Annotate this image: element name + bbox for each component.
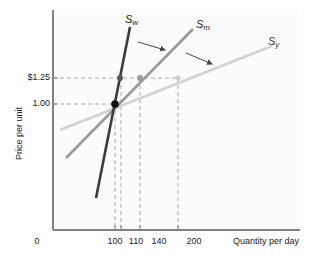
marker-sw-at-125 — [117, 75, 123, 81]
marker-sm-at-125 — [137, 75, 143, 81]
curve-label-sw: Sw — [125, 13, 138, 27]
y-tick-label-125: $1.25 — [6, 72, 50, 82]
y-axis-title: Price per unit — [14, 107, 24, 160]
marker-common-intersection — [111, 100, 119, 108]
curve-label-sm: Sm — [196, 18, 210, 32]
supply-curve-sy — [60, 46, 272, 130]
arrow-sm-to-sy — [186, 53, 212, 64]
arrow-sw-to-sm — [138, 42, 165, 50]
curve-label-sy-sub: y — [275, 40, 279, 49]
supply-curve-figure: Price per unit $1.25 1.00 100 110 140 20… — [0, 0, 320, 262]
curve-label-sm-sub: m — [203, 23, 210, 32]
x-tick-label-200: 200 — [178, 236, 210, 246]
curve-label-sw-sub: w — [132, 18, 138, 27]
x-axis-title: Quantity per day — [233, 236, 299, 246]
y-tick-label-100: 1.00 — [6, 98, 50, 108]
curve-label-sy: Sy — [268, 35, 279, 49]
x-tick-label-140: 140 — [143, 236, 175, 246]
marker-sy-at-125 — [175, 75, 180, 80]
supply-curve-sm — [66, 29, 193, 158]
origin-label: 0 — [29, 236, 45, 246]
